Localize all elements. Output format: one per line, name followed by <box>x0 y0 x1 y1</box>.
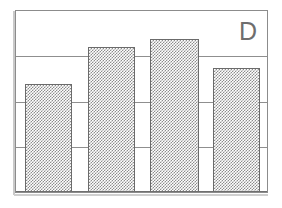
x-axis-baseline <box>16 191 267 192</box>
bar-chart-figure: D <box>0 0 282 208</box>
bar-1 <box>25 84 72 192</box>
plot-area: D <box>15 10 268 193</box>
bar-2 <box>88 47 135 192</box>
bar-3 <box>150 39 199 192</box>
bar-4 <box>213 68 260 192</box>
gridline-y3 <box>16 56 267 57</box>
panel-label: D <box>239 19 257 44</box>
figure-edge-shadow-bottom <box>14 194 268 196</box>
